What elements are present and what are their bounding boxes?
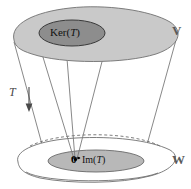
- codomain-space-label: W: [172, 153, 186, 166]
- domain-space-label: V: [172, 24, 182, 37]
- image-label-suffix: ): [102, 154, 105, 165]
- kernel-image-diagram: V W T Ker(T) 0 Im(T): [0, 0, 191, 189]
- image-label: Im(T): [82, 155, 105, 165]
- zero-vector-label: 0: [71, 154, 77, 165]
- kernel-label-suffix: ): [76, 26, 80, 38]
- map-label: T: [9, 86, 16, 98]
- kernel-label-prefix: Ker(: [50, 26, 70, 38]
- kernel-label: Ker(T): [50, 27, 80, 38]
- map-arrow: [26, 87, 33, 112]
- vector-arrow-icon: [71, 151, 80, 155]
- image-label-prefix: Im(: [82, 154, 96, 165]
